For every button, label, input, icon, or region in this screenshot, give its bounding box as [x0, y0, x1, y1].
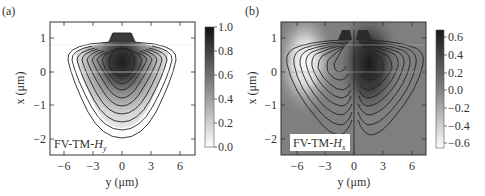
panel-a-xlabel: y (μm) [106, 175, 139, 189]
svg-text:0.4: 0.4 [218, 92, 233, 106]
svg-text:0.0: 0.0 [218, 140, 233, 154]
panel-b-ylabel: x (μm) [245, 72, 259, 105]
panel-b: (b) [245, 4, 470, 189]
panel-a-xticks: −6 −3 0 3 6 [58, 159, 183, 173]
panel-b-xticks: −6 −3 0 3 6 [291, 159, 415, 173]
svg-text:−1: −1 [264, 98, 277, 112]
svg-text:3: 3 [148, 159, 154, 173]
figure: (a) [0, 0, 485, 196]
svg-text:0: 0 [119, 159, 125, 173]
svg-text:0: 0 [351, 159, 357, 173]
svg-text:3: 3 [380, 159, 386, 173]
svg-text:6: 6 [177, 159, 183, 173]
panel-b-heatmap [271, 6, 426, 155]
svg-text:−2: −2 [264, 132, 277, 146]
svg-text:6: 6 [409, 159, 415, 173]
svg-text:0.0: 0.0 [448, 83, 463, 97]
svg-text:−3: −3 [319, 159, 332, 173]
svg-text:−6: −6 [291, 159, 304, 173]
panel-b-colorbar: 0.6 0.4 0.2 0.0 −0.2 −0.4 −0.6 [436, 30, 470, 150]
svg-text:1: 1 [271, 31, 277, 45]
panel-b-yticks: 1 0 −1 −2 [264, 31, 277, 146]
panel-a-yticks: 1 0 −1 −2 [33, 31, 46, 146]
panel-a-annotation: FV-TM-Hy [54, 137, 107, 153]
panel-a-ylabel: x (μm) [13, 72, 27, 105]
panel-a-label: (a) [2, 4, 15, 18]
svg-text:1.0: 1.0 [218, 20, 233, 34]
svg-text:0: 0 [40, 65, 46, 79]
svg-text:−0.2: −0.2 [448, 101, 470, 115]
svg-text:−3: −3 [87, 159, 100, 173]
svg-text:0.4: 0.4 [448, 48, 463, 62]
panel-b-xlabel: y (μm) [338, 175, 371, 189]
panel-a-heatmap [50, 22, 195, 155]
panel-b-label: (b) [245, 4, 259, 18]
panel-b-annotation: FV-TM-Hx [293, 136, 346, 152]
svg-text:0.6: 0.6 [448, 30, 463, 44]
svg-text:1: 1 [40, 31, 46, 45]
panel-a-colorbar: 1.0 0.8 0.6 0.4 0.2 0.0 [205, 20, 233, 154]
svg-text:−0.4: −0.4 [448, 119, 470, 133]
svg-text:−0.6: −0.6 [448, 136, 470, 150]
svg-text:−1: −1 [33, 98, 46, 112]
svg-text:0.2: 0.2 [448, 66, 463, 80]
svg-text:0.2: 0.2 [218, 116, 233, 130]
svg-text:−6: −6 [58, 159, 71, 173]
svg-text:0.6: 0.6 [218, 68, 233, 82]
panel-a: (a) [2, 4, 233, 189]
svg-text:0: 0 [271, 65, 277, 79]
svg-text:0.8: 0.8 [218, 44, 233, 58]
svg-text:−2: −2 [33, 132, 46, 146]
